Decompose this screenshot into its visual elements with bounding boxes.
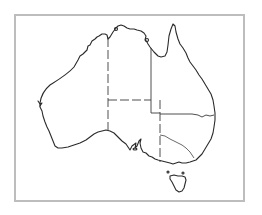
kangaroo-island	[133, 148, 137, 150]
australia-map	[0, 0, 262, 215]
groote-eylandt	[146, 39, 149, 42]
melville-island	[115, 28, 118, 31]
flinders-island	[182, 172, 184, 174]
mainland-coastline	[40, 24, 215, 164]
border-qld-nsw	[160, 114, 214, 117]
tasmania-coastline	[170, 175, 186, 192]
king-island	[167, 171, 169, 173]
border-nsw-vic	[160, 135, 194, 158]
